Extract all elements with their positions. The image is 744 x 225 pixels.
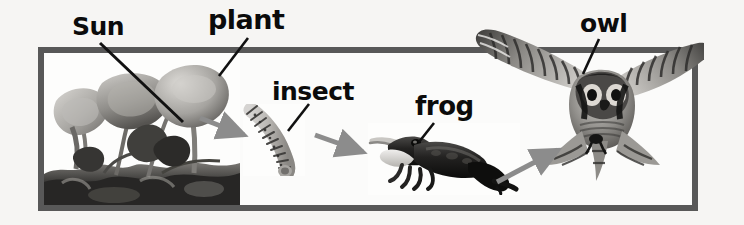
label-plant: plant <box>208 6 284 33</box>
insect-photograph <box>243 104 305 176</box>
plant-photograph <box>44 53 240 205</box>
label-frog: frog <box>415 93 474 119</box>
owl-photograph <box>474 23 704 183</box>
label-sun: Sun <box>72 14 124 39</box>
label-insect: insect <box>272 79 354 104</box>
food-chain-diagram: Sun plant insect frog owl <box>0 0 744 225</box>
label-owl: owl <box>580 11 627 36</box>
